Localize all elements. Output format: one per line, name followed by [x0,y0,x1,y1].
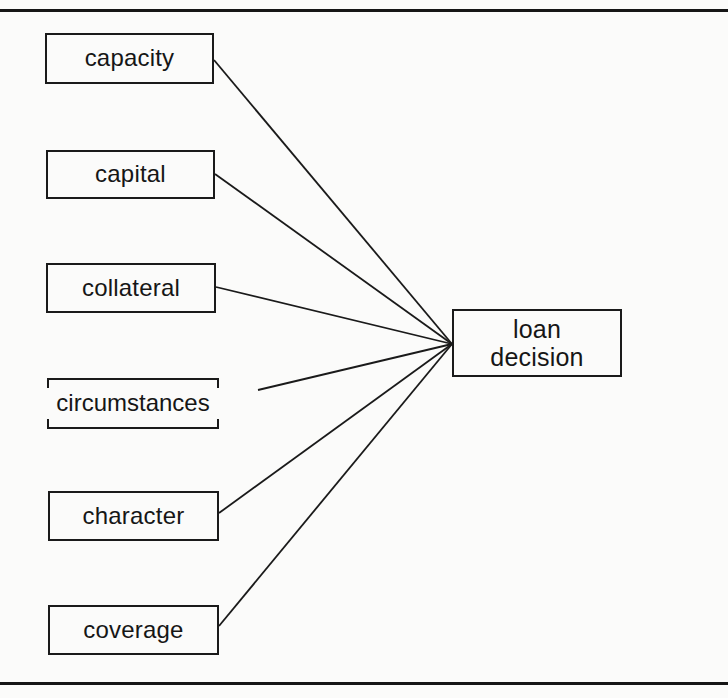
factor-capacity: capacity [45,33,214,84]
target-label-line1: loan [513,315,561,343]
factor-character: character [48,491,219,541]
factor-capital: capital [46,150,215,199]
factor-coverage: coverage [48,605,219,655]
edge-character [219,344,452,513]
factor-label: capital [95,161,166,187]
edge-capital [215,174,452,344]
factor-label: coverage [83,617,183,643]
factor-collateral: collateral [46,263,216,313]
bracket-bottom [47,419,219,429]
factor-label: capacity [85,45,175,71]
target-label-line2: decision [490,343,583,371]
edge-capacity [214,60,452,344]
loan-decision-box: loan decision [452,309,622,377]
edge-coverage [219,344,452,626]
edge-collateral [216,287,452,344]
factor-label: circumstances [25,389,241,417]
bracket-top [47,378,219,388]
factor-label: collateral [82,275,180,301]
edge-circumstances [258,344,452,390]
factor-circumstances: circumstances [25,378,241,429]
factor-label: character [83,503,185,529]
